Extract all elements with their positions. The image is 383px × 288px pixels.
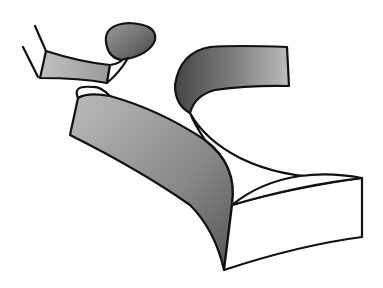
3d-letterform-drawing — [0, 0, 383, 288]
left-stroke-2 — [23, 47, 38, 77]
dot-ball — [106, 23, 155, 60]
left-stroke-1 — [35, 26, 46, 51]
dot-neck — [107, 58, 128, 83]
arc-shoulder — [175, 46, 289, 113]
main-ribbon-side — [70, 94, 233, 270]
left-tab — [40, 51, 110, 83]
illustration-canvas — [0, 0, 383, 288]
